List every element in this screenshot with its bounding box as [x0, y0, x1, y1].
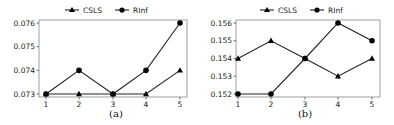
chart-a: 0.0730.0740.0750.07612345CSLSRInf(a)	[14, 6, 187, 119]
legend-label: CSLS	[278, 6, 297, 15]
circle-marker-icon	[314, 7, 319, 12]
x-tick-label: 5	[370, 100, 375, 109]
triangle-marker-icon	[268, 38, 274, 43]
x-tick-label: 2	[77, 100, 82, 109]
circle-marker-icon	[335, 20, 341, 26]
series-line-rinf	[46, 23, 180, 94]
x-tick-label: 4	[336, 100, 341, 109]
x-tick-label: 5	[178, 100, 183, 109]
legend-label: CSLS	[83, 6, 102, 15]
x-tick-label: 4	[144, 100, 149, 109]
y-tick-label: 0.152	[211, 90, 233, 99]
legend-label: RInf	[328, 6, 343, 15]
y-tick-label: 0.153	[211, 72, 233, 81]
chart-caption: (a)	[109, 108, 123, 119]
y-tick-label: 0.155	[211, 36, 233, 45]
plot-area	[39, 20, 187, 97]
circle-marker-icon	[268, 91, 274, 97]
y-tick-label: 0.073	[14, 90, 36, 99]
circle-marker-icon	[110, 91, 116, 97]
legend: CSLSRInf	[65, 6, 148, 15]
x-tick-label: 1	[236, 100, 241, 109]
series-line-csls	[46, 70, 180, 94]
plot-area	[236, 20, 380, 97]
circle-marker-icon	[43, 91, 49, 97]
y-tick-label: 0.156	[211, 19, 233, 28]
x-tick-label: 2	[269, 100, 274, 109]
y-tick-label: 0.075	[14, 42, 36, 51]
circle-marker-icon	[369, 38, 375, 44]
triangle-marker-icon	[369, 55, 375, 60]
circle-marker-icon	[177, 20, 183, 26]
legend: CSLSRInf	[260, 6, 343, 15]
y-tick-label: 0.076	[14, 19, 36, 28]
circle-marker-icon	[119, 7, 124, 12]
circle-marker-icon	[302, 56, 308, 62]
figure: 0.0730.0740.0750.07612345CSLSRInf(a) 0.1…	[0, 0, 394, 125]
circle-marker-icon	[76, 68, 82, 74]
x-tick-label: 1	[44, 100, 49, 109]
chart-caption: (b)	[298, 108, 312, 119]
triangle-marker-icon	[177, 67, 183, 72]
circle-marker-icon	[235, 91, 241, 97]
y-tick-label: 0.074	[14, 66, 36, 75]
legend-label: RInf	[133, 6, 148, 15]
y-tick-label: 0.154	[211, 54, 233, 63]
chart-b: 0.1520.1530.1540.1550.15612345CSLSRInf(b…	[211, 6, 380, 119]
circle-marker-icon	[143, 68, 149, 74]
